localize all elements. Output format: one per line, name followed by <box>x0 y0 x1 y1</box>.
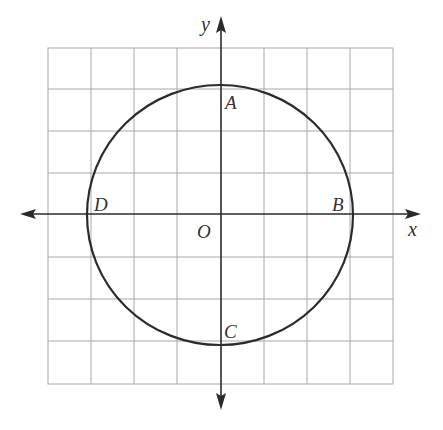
origin-label: O <box>197 221 211 242</box>
x-axis-label: x <box>407 218 417 240</box>
circle <box>87 85 353 345</box>
point-label-a: A <box>223 92 237 113</box>
y-axis <box>216 16 226 410</box>
y-axis-label: y <box>199 13 210 36</box>
diagram-canvas: x y O A B C D <box>0 0 443 430</box>
point-label-c: C <box>224 321 237 342</box>
point-label-d: D <box>93 194 108 215</box>
coordinate-plane: x y O A B C D <box>0 0 443 430</box>
point-label-b: B <box>332 194 344 215</box>
